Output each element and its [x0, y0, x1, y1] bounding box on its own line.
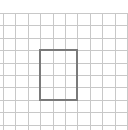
grid-lines: [0, 13, 128, 130]
grid-diagram: [0, 0, 128, 130]
